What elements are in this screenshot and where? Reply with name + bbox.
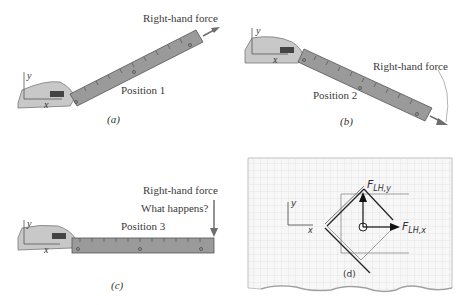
axis-x-label: x bbox=[273, 54, 277, 65]
force-y-label: FLH,y bbox=[367, 178, 391, 193]
axis-y-label: y bbox=[27, 218, 31, 229]
position-label: Position 2 bbox=[313, 89, 357, 101]
force-arrow-icon bbox=[211, 27, 220, 33]
panel-caption: (a) bbox=[107, 113, 120, 125]
question-label: What happens? bbox=[141, 202, 209, 214]
force-x-subscript: LH,x bbox=[408, 226, 426, 235]
ruler-illustration-b bbox=[230, 0, 461, 150]
ruler bbox=[72, 238, 214, 253]
force-x-label: FLH,x bbox=[402, 220, 426, 235]
force-y-subscript: LH,y bbox=[373, 184, 391, 193]
force-label: Right-hand force bbox=[143, 184, 218, 196]
grip-icon bbox=[280, 47, 294, 53]
force-label: Right-hand force bbox=[373, 60, 448, 72]
axis-y-label: y bbox=[27, 70, 31, 81]
panel-b: y x Right-hand force Position 2 (b) bbox=[230, 0, 461, 150]
grip-icon bbox=[52, 233, 66, 239]
panel-a: y x Right-hand force Position 1 (a) bbox=[0, 0, 230, 150]
panel-d: y x FLH,y FLH,x (d) bbox=[246, 156, 454, 294]
axis-y-label: y bbox=[291, 198, 296, 208]
leader-line bbox=[438, 70, 448, 122]
axis-x-label: x bbox=[44, 244, 48, 255]
panel-caption: (d) bbox=[343, 269, 356, 279]
panel-caption: (b) bbox=[340, 115, 353, 127]
position-label: Position 1 bbox=[121, 84, 165, 96]
position-label: Position 3 bbox=[121, 220, 165, 232]
grip-icon bbox=[50, 91, 64, 97]
panel-c: y x Right-hand force What happens? Posit… bbox=[0, 150, 230, 305]
panel-caption: (c) bbox=[111, 279, 123, 291]
axis-x-label: x bbox=[44, 99, 48, 110]
force-arrow-icon bbox=[210, 228, 218, 237]
axis-y-label: y bbox=[256, 25, 260, 36]
force-label: Right-hand force bbox=[143, 12, 218, 24]
axis-x-label: x bbox=[308, 226, 313, 235]
